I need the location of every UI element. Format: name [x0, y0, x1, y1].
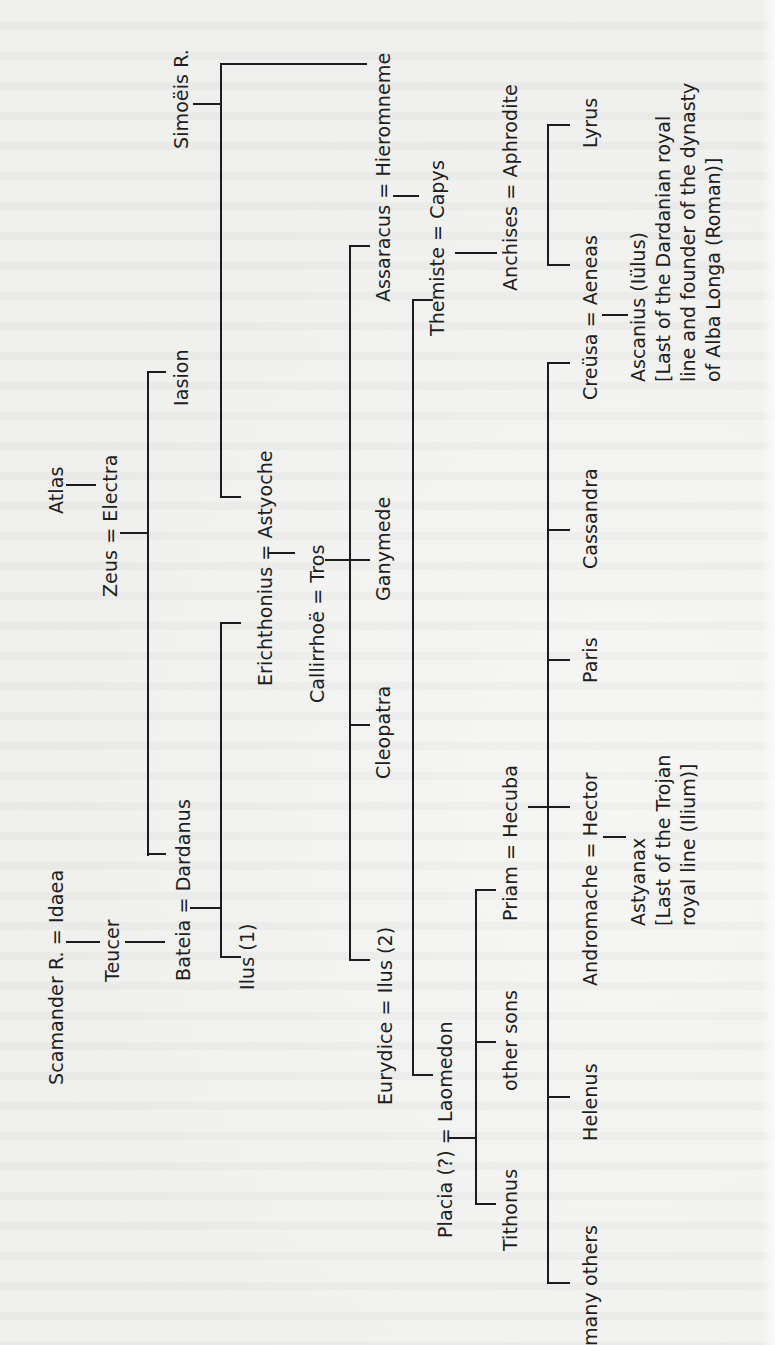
connector — [476, 1203, 496, 1205]
couple-themiste-capys: Themiste = Capys — [425, 160, 449, 336]
connector — [412, 299, 414, 1076]
connector — [603, 836, 626, 838]
connector — [548, 529, 570, 531]
note-line: [Last of the Trojan — [651, 755, 676, 926]
person-ilus-1: Ilus (1) — [235, 923, 259, 990]
connector — [125, 941, 165, 943]
person-cassandra: Cassandra — [578, 468, 602, 569]
person-many-others: many others — [578, 1225, 602, 1345]
connector — [147, 371, 149, 856]
connector — [350, 245, 370, 247]
connector — [528, 806, 570, 808]
person-helenus: Helenus — [578, 1063, 602, 1141]
couple-andromache-hector: Andromache = Hector — [578, 772, 602, 986]
couple-assaracus-hieromneme: Assaracus = Hieromneme — [371, 53, 395, 302]
connector — [393, 195, 419, 197]
connector — [602, 314, 628, 316]
connector — [221, 622, 241, 624]
couple-placia-laomedon: Placia (?) = Laomedon — [433, 1021, 457, 1238]
couple-callirrhoe-tros: Callirrhoë = Tros — [305, 545, 329, 704]
connector — [548, 264, 570, 266]
couple-bateia-dardanus: Bateia = Dardanus — [171, 799, 195, 981]
connector — [350, 724, 370, 726]
connector — [548, 124, 570, 126]
connector — [349, 245, 351, 961]
person-cleopatra: Cleopatra — [371, 686, 395, 779]
person-other-sons: other sons — [498, 990, 522, 1091]
connector — [475, 889, 477, 1205]
connector — [547, 362, 549, 1284]
connector — [476, 889, 496, 891]
connector — [193, 103, 221, 105]
note-line: of Alba Longa (Roman)] — [701, 83, 726, 382]
connector — [66, 484, 96, 486]
couple-zeus-electra: Zeus = Electra — [98, 455, 122, 597]
connector — [548, 362, 570, 364]
connector — [148, 371, 166, 373]
connector — [413, 1074, 433, 1076]
person-simoeis: Simoëis R. — [169, 49, 193, 149]
couple-priam-hecuba: Priam = Hecuba — [498, 765, 522, 921]
connector — [548, 1096, 570, 1098]
couple-eurydice-ilus-2: Eurydice = Ilus (2) — [373, 927, 397, 1105]
couple-erichthonius-astyoche: Erichthonius = Astyoche — [253, 450, 277, 686]
connector — [221, 496, 241, 498]
connector — [547, 124, 549, 266]
note-line: royal line (Ilium)] — [676, 755, 701, 926]
connector — [120, 532, 148, 534]
connector — [325, 559, 370, 561]
connector — [476, 1041, 496, 1043]
note-astyanax: Astyanax [Last of the Trojan royal line … — [626, 755, 701, 926]
connector — [66, 941, 100, 943]
couple-creusa-aeneas: Creüsa = Aeneas — [578, 235, 602, 400]
couple-scamander-idaea: Scamander R. = Idaea — [44, 870, 68, 1085]
note-line: Astyanax — [626, 755, 651, 926]
connector — [548, 659, 570, 661]
person-ganymede: Ganymede — [371, 497, 395, 601]
connector — [350, 959, 370, 961]
person-teucer: Teucer — [100, 919, 124, 982]
person-atlas: Atlas — [44, 467, 68, 514]
note-line: Ascanius (Iülus) — [626, 83, 651, 382]
connector — [148, 853, 166, 855]
person-lyrus: Lyrus — [578, 98, 602, 148]
person-paris: Paris — [578, 637, 602, 683]
person-tithonus: Tithonus — [498, 1169, 522, 1251]
connector — [548, 1282, 570, 1284]
connector — [455, 252, 497, 254]
note-ascanius: Ascanius (Iülus) [Last of the Dardanian … — [626, 83, 726, 382]
note-line: [Last of the Dardanian royal — [651, 83, 676, 382]
connector — [221, 63, 367, 65]
page-edge — [761, 0, 775, 1345]
person-iasion: Iasion — [169, 349, 193, 406]
couple-anchises-aphrodite: Anchises = Aphrodite — [498, 84, 522, 291]
note-line: line and founder of the dynasty — [676, 83, 701, 382]
connector — [220, 622, 222, 958]
connector — [220, 63, 222, 498]
